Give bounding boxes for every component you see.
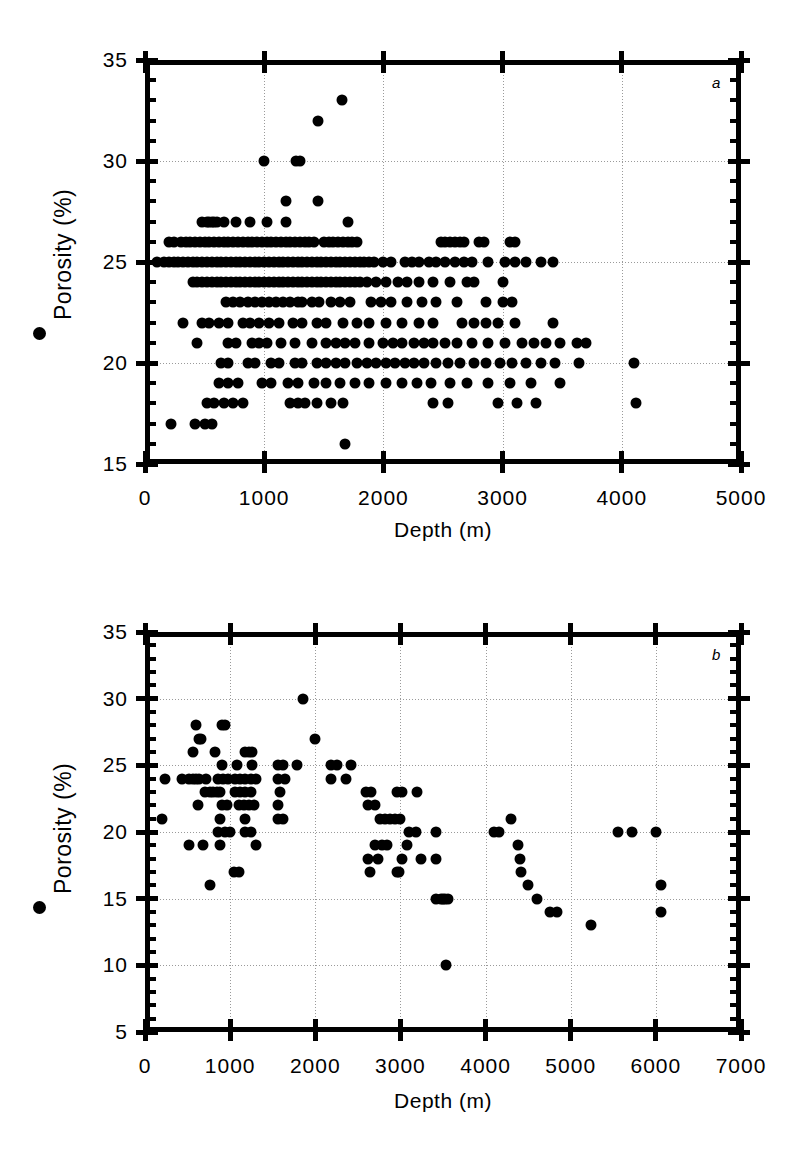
tick-y-minor: [145, 883, 156, 887]
tick-y-minor: [730, 381, 741, 385]
tick-x-major: [568, 623, 573, 645]
tick-y-minor: [145, 119, 156, 123]
data-point: [655, 880, 666, 891]
data-point: [402, 840, 413, 851]
data-point: [416, 297, 427, 308]
data-point: [223, 358, 234, 369]
data-point: [325, 398, 336, 409]
data-point: [531, 893, 542, 904]
tick-y-minor: [730, 790, 741, 794]
tick-y-minor: [730, 723, 741, 727]
tick-y-minor: [145, 300, 156, 304]
tick-y-minor: [730, 98, 741, 102]
data-point: [297, 358, 308, 369]
tick-x-major: [228, 623, 233, 645]
data-point: [509, 257, 520, 268]
data-point: [509, 236, 520, 247]
tick-y-minor: [730, 843, 741, 847]
tick-y-minor: [730, 977, 741, 981]
data-point: [261, 337, 272, 348]
data-point: [397, 317, 408, 328]
tick-label-y: 35: [50, 48, 128, 72]
data-point: [535, 358, 546, 369]
tick-y-minor: [730, 220, 741, 224]
data-point: [364, 337, 375, 348]
data-point: [346, 760, 357, 771]
tick-label-x: 0: [139, 1054, 152, 1078]
tick-x-major: [228, 1019, 233, 1041]
tick-y-minor: [730, 870, 741, 874]
tick-y-minor: [730, 78, 741, 82]
tick-label-y: 35: [50, 620, 128, 644]
data-point: [196, 733, 207, 744]
data-point: [218, 216, 229, 227]
data-point: [468, 358, 479, 369]
tick-y-minor: [145, 381, 156, 385]
data-point: [468, 277, 479, 288]
data-point: [306, 337, 317, 348]
tick-y-minor: [730, 401, 741, 405]
tick-y-minor: [145, 280, 156, 284]
data-point: [452, 297, 463, 308]
tick-y-minor: [730, 422, 741, 426]
data-point: [459, 236, 470, 247]
tick-y-minor: [145, 670, 156, 674]
data-point: [233, 867, 244, 878]
data-point: [402, 277, 413, 288]
data-point: [192, 337, 203, 348]
tick-y-minor: [730, 817, 741, 821]
data-point: [184, 840, 195, 851]
data-point: [336, 95, 347, 106]
data-point: [516, 867, 527, 878]
data-point: [247, 760, 258, 771]
tick-y-minor: [730, 950, 741, 954]
axis-bottom-a: [145, 459, 741, 464]
tick-y-minor: [145, 937, 156, 941]
tick-y-minor: [730, 750, 741, 754]
data-point: [492, 317, 503, 328]
data-point: [507, 358, 518, 369]
tick-label-x: 2000: [290, 1054, 341, 1078]
data-point: [628, 358, 639, 369]
data-point: [157, 813, 168, 824]
axis-top-a: [145, 60, 741, 65]
data-point: [273, 317, 284, 328]
data-point: [292, 378, 303, 389]
data-point: [494, 827, 505, 838]
tick-y-minor: [145, 817, 156, 821]
axis-title-x-b: Depth (m): [394, 1089, 492, 1113]
data-point: [431, 853, 442, 864]
data-point: [483, 378, 494, 389]
tick-y-major: [136, 58, 158, 63]
data-point: [492, 398, 503, 409]
panel-a: a Depth (m) Porosity (%) 010002000300040…: [0, 0, 796, 560]
tick-label-y: 30: [50, 149, 128, 173]
data-point: [457, 317, 468, 328]
data-point: [364, 317, 375, 328]
tick-x-major: [619, 51, 624, 73]
data-point: [521, 257, 532, 268]
data-point: [280, 196, 291, 207]
tick-label-y: 25: [50, 753, 128, 777]
data-point: [430, 297, 441, 308]
data-point: [369, 800, 380, 811]
data-point: [395, 813, 406, 824]
tick-label-x: 4000: [596, 486, 647, 510]
tick-y-major: [728, 361, 750, 366]
tick-y-minor: [730, 710, 741, 714]
data-point: [272, 800, 283, 811]
tick-x-major: [381, 451, 386, 473]
data-point: [216, 760, 227, 771]
data-point: [340, 773, 351, 784]
tick-y-minor: [145, 321, 156, 325]
tick-y-minor: [730, 1017, 741, 1021]
data-point: [627, 827, 638, 838]
tick-y-major: [728, 830, 750, 835]
data-point: [445, 378, 456, 389]
data-point: [440, 337, 451, 348]
tick-y-minor: [145, 750, 156, 754]
tick-label-y: 5: [50, 1020, 128, 1044]
tick-y-minor: [730, 240, 741, 244]
data-point: [345, 297, 356, 308]
data-point: [277, 760, 288, 771]
